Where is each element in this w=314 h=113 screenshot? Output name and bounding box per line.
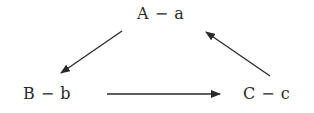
edge-a-to-b-arrow [61,31,122,73]
node-a: A − a [137,4,184,23]
node-c: C − c [243,84,290,103]
node-b: B − b [23,84,71,103]
cycle-diagram: A − a B − b C − c [0,0,314,113]
edge-c-to-a-arrow [206,32,270,76]
